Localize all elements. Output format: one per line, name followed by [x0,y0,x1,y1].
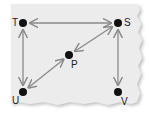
node-label-t: T [12,18,18,28]
node-u [19,88,27,96]
node-label-u: U [12,96,19,106]
node-p [65,51,73,59]
node-t [19,19,27,27]
paper-card [11,4,142,105]
node-label-p: P [71,60,78,70]
graph-diagram: TSPUV [0,0,149,114]
node-label-s: S [124,18,131,28]
node-s [114,19,122,27]
node-v [114,88,122,96]
node-label-v: V [121,97,128,107]
